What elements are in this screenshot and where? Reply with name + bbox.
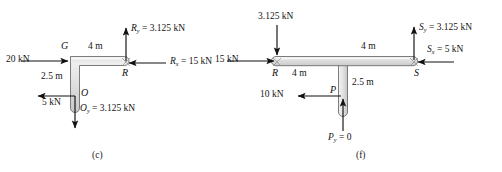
force-subscript-Sx: x [432, 48, 435, 55]
force-label-Sx: Sx = 5 kN [427, 45, 463, 55]
force-value-Py: = 0 [339, 132, 351, 142]
panel-c-drawing [0, 0, 251, 172]
force-value-Sx: = 5 kN [437, 44, 463, 54]
force-label-15kN: 15 kN [215, 55, 239, 65]
force-label-Py: Py = 0 [328, 133, 351, 143]
force-subscript-Sy: y [424, 26, 427, 33]
dimension-right-length: 4 m [361, 42, 376, 52]
dimension-stem-length: 2.5 m [352, 78, 374, 88]
panel-f: R S P 4 m 4 m 2.5 m 3.125 kN 15 kN Sy = … [251, 0, 502, 172]
force-label-3125kN: 3.125 kN [258, 12, 293, 22]
point-label-S: S [414, 68, 419, 78]
force-subscript-Rx: x [176, 60, 179, 67]
point-label-R-f: R [272, 68, 278, 78]
force-subscript-Ry: y [137, 27, 140, 34]
force-label-Oy: Oy = 3.125 kN [80, 104, 135, 114]
force-label-Sy: Sy = 3.125 kN [419, 23, 472, 33]
point-label-O: O [81, 88, 88, 98]
force-label-5kN: 5 kN [42, 98, 61, 108]
force-label-20kN: 20 kN [6, 55, 30, 65]
force-label-Ry: Ry = 3.125 kN [131, 24, 185, 34]
force-value-Oy: = 3.125 kN [92, 103, 135, 113]
force-value-Ry: = 3.125 kN [142, 23, 185, 33]
dimension-left-length: 4 m [292, 69, 307, 79]
force-value-Sy: = 3.125 kN [429, 22, 472, 32]
force-symbol-Oy: O [80, 103, 87, 113]
force-label-Rx: Rx = 15 kN [170, 57, 212, 67]
point-label-R: R [122, 68, 128, 78]
panel-c: G R O 4 m 2.5 m 20 kN Ry = 3.125 kN Rx =… [0, 0, 251, 172]
force-subscript-Py: y [334, 136, 337, 143]
point-label-G: G [61, 41, 68, 51]
dimension-vertical-length: 2.5 m [41, 72, 63, 82]
t-bracket-body [271, 57, 417, 117]
force-subscript-Oy: y [87, 107, 90, 114]
panel-caption-f: (f) [356, 150, 366, 160]
force-value-Rx: = 15 kN [181, 56, 212, 66]
dimension-top-length: 4 m [88, 42, 103, 52]
figure-free-body-diagrams: G R O 4 m 2.5 m 20 kN Ry = 3.125 kN Rx =… [0, 0, 502, 172]
force-label-10kN: 10 kN [260, 90, 284, 100]
point-label-P: P [330, 85, 336, 95]
panel-caption-c: (c) [92, 150, 103, 160]
